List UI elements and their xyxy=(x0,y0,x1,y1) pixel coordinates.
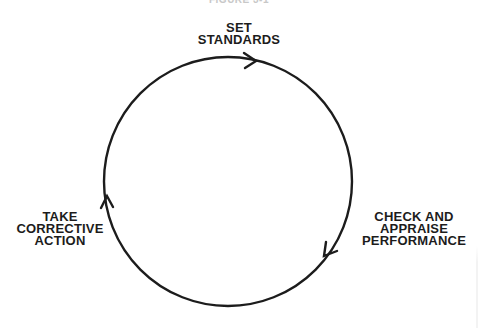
node-label-line: ACTION xyxy=(8,235,112,247)
node-label-line: STANDARDS xyxy=(189,34,289,46)
node-set-standards: SET STANDARDS xyxy=(189,22,289,46)
cycle-diagram xyxy=(0,0,478,328)
arrowhead-top-icon xyxy=(244,53,256,68)
node-label-line: PERFORMANCE xyxy=(354,235,474,247)
cycle-circle xyxy=(104,57,352,306)
node-check-and-appraise-performance: CHECK AND APPRAISE PERFORMANCE xyxy=(354,211,474,247)
node-take-corrective-action: TAKE CORRECTIVE ACTION xyxy=(8,211,112,247)
